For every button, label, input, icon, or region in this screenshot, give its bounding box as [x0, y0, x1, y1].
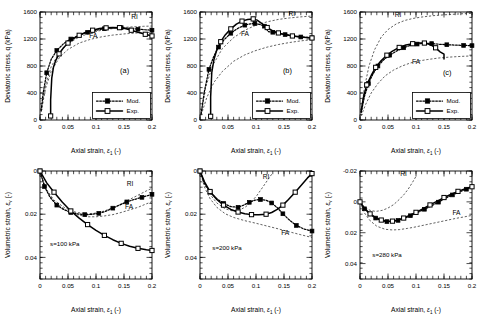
- legend-marker-mod: [105, 99, 109, 103]
- series-marker-exp: [385, 53, 389, 57]
- series-marker-mod: [445, 43, 449, 47]
- suction-label: s=280 kPa: [372, 251, 402, 258]
- x-axis-title: Axial strain, ε1 (-): [71, 147, 121, 156]
- x-tick-label: 0.1: [92, 282, 101, 289]
- series-marker-mod: [247, 200, 251, 204]
- chart-panel-panel-e: 00.050.10.150.200.020.04RIFAs=200 kPaAxi…: [160, 159, 320, 317]
- x-axis-title: Axial strain, ε1 (-): [391, 306, 441, 315]
- plot-frame: [40, 171, 152, 279]
- x-axis-title: Axial strain, ε1 (-): [231, 306, 281, 315]
- curve-label-ri: RI: [400, 170, 407, 177]
- series-curve-mod: [200, 171, 312, 231]
- series-marker-exp: [236, 210, 240, 214]
- y-tick-label: 0: [354, 116, 358, 123]
- curve-label-fa: FA: [412, 58, 421, 65]
- series-marker-exp: [264, 212, 268, 216]
- x-tick-label: 0.15: [118, 282, 131, 289]
- series-marker-exp: [66, 41, 70, 45]
- chart-panel-panel-c: 00.050.10.150.2040080012001600RIFA(c)Mod…: [320, 0, 480, 158]
- series-marker-exp: [219, 40, 223, 44]
- y-tick-label: 0.02: [185, 210, 198, 217]
- series-curve-fa: [40, 171, 152, 217]
- series-marker-exp: [265, 25, 269, 29]
- series-marker-mod: [294, 224, 298, 228]
- legend-marker-exp: [105, 109, 110, 114]
- y-tick-label: 0: [194, 167, 198, 174]
- series-marker-exp: [397, 45, 401, 49]
- series-marker-exp: [428, 203, 432, 207]
- series-marker-exp: [470, 185, 474, 189]
- x-tick-label: 0.2: [308, 123, 317, 130]
- series-marker-exp: [365, 83, 369, 87]
- series-marker-exp: [52, 190, 56, 194]
- series-marker-mod: [281, 212, 285, 216]
- legend-marker-exp: [425, 109, 430, 114]
- y-axis-title: Deviatoric stress, q (kPa): [4, 29, 12, 103]
- legend-label-mod: Mod.: [127, 97, 141, 104]
- legend: Mod.Exp.: [253, 93, 311, 119]
- y-tick-label: 0: [194, 116, 198, 123]
- curve-label-ri: RI: [288, 10, 295, 17]
- series-marker-exp: [150, 34, 154, 38]
- curve-label-fa: FA: [281, 229, 290, 236]
- y-tick-label: 800: [27, 62, 38, 69]
- x-tick-label: 0: [198, 123, 202, 130]
- y-tick-label: 1600: [183, 8, 197, 15]
- curve-label-ri: RI: [263, 173, 270, 180]
- x-tick-label: 0.1: [92, 123, 101, 130]
- curve-label-ri: RI: [395, 11, 402, 18]
- legend-marker-mod: [265, 99, 269, 103]
- series-marker-mod: [259, 198, 263, 202]
- series-marker-mod: [236, 205, 240, 209]
- series-marker-mod: [43, 185, 47, 189]
- y-tick-label: -0.02: [343, 167, 358, 174]
- series-marker-mod: [270, 201, 274, 205]
- series-marker-exp: [57, 52, 61, 56]
- y-tick-label: 400: [27, 89, 38, 96]
- x-tick-label: 0.2: [148, 282, 157, 289]
- series-marker-exp: [411, 42, 415, 46]
- series-marker-exp: [119, 241, 123, 245]
- series-marker-exp: [129, 28, 133, 32]
- series-marker-exp: [69, 209, 73, 213]
- x-tick-label: 0.05: [222, 123, 235, 130]
- y-tick-label: 400: [187, 89, 198, 96]
- x-tick-label: 0: [38, 123, 42, 130]
- series-marker-exp: [310, 36, 314, 40]
- series-marker-mod: [97, 211, 101, 215]
- x-axis-title: Axial strain, ε1 (-): [71, 306, 121, 315]
- series-marker-exp: [434, 46, 438, 50]
- x-tick-label: 0.15: [438, 123, 451, 130]
- legend-box: [93, 93, 151, 119]
- series-marker-exp: [208, 189, 212, 193]
- y-tick-label: 1600: [343, 8, 357, 15]
- y-tick-label: 0: [34, 167, 38, 174]
- x-tick-label: 0: [358, 282, 362, 289]
- y-axis-title: Volumetric strain, εv (-): [164, 192, 173, 258]
- y-axis-title: Deviatoric stress, q (kPa): [164, 29, 172, 103]
- series-marker-exp: [198, 169, 202, 173]
- x-tick-label: 0.1: [412, 123, 421, 130]
- suction-label: s=100 kPa: [50, 240, 80, 247]
- legend-marker-mod: [425, 99, 429, 103]
- x-tick-label: 0.2: [148, 123, 157, 130]
- y-tick-label: 0.04: [25, 254, 38, 261]
- series-marker-exp: [390, 219, 394, 223]
- y-tick-label: 400: [347, 89, 358, 96]
- x-tick-label: 0: [198, 282, 202, 289]
- x-tick-label: 0.05: [62, 123, 75, 130]
- series-marker-mod: [150, 192, 154, 196]
- y-tick-label: 0.04: [345, 260, 358, 267]
- curve-label-fa: FA: [452, 209, 461, 216]
- chart-panel-panel-d: 00.050.10.150.200.020.04RIFAs=100 kPaAxi…: [0, 159, 160, 317]
- series-marker-exp: [102, 233, 106, 237]
- series-marker-mod: [45, 71, 49, 75]
- series-marker-exp: [281, 203, 285, 207]
- series-marker-mod: [253, 22, 257, 26]
- y-axis-title: Volumetric strain, εv (-): [324, 192, 333, 258]
- series-marker-mod: [83, 213, 87, 217]
- panel-label: (a): [120, 66, 129, 75]
- series-marker-mod: [470, 44, 474, 48]
- series-marker-exp: [221, 203, 225, 207]
- y-tick-label: 0: [354, 198, 358, 205]
